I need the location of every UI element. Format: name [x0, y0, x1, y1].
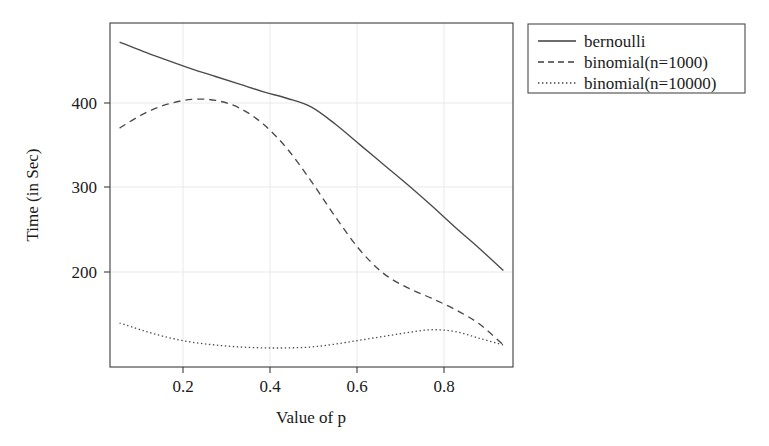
y-tick-label-200: 200 [72, 263, 98, 282]
y-axis-title: Time (in Sec) [23, 149, 42, 242]
chart-canvas: 400 300 200 0.2 0.4 0.6 0.8 Value of p T… [0, 0, 769, 446]
x-axis-title: Value of p [276, 408, 346, 427]
x-tick-label-0.4: 0.4 [259, 377, 281, 396]
legend-label-binomial-n10000: binomial(n=10000) [584, 74, 716, 93]
y-tick-label-300: 300 [72, 178, 98, 197]
legend-label-bernoulli: bernoulli [584, 32, 646, 51]
x-tick-label-0.8: 0.8 [433, 377, 454, 396]
legend[interactable]: bernoulli binomial(n=1000) binomial(n=10… [528, 24, 745, 93]
x-tick-label-0.2: 0.2 [172, 377, 193, 396]
x-tick-label-0.6: 0.6 [346, 377, 367, 396]
y-tick-label-400: 400 [72, 94, 98, 113]
legend-label-binomial-n1000: binomial(n=1000) [584, 53, 708, 72]
line-chart-figure: 400 300 200 0.2 0.4 0.6 0.8 Value of p T… [0, 0, 769, 446]
